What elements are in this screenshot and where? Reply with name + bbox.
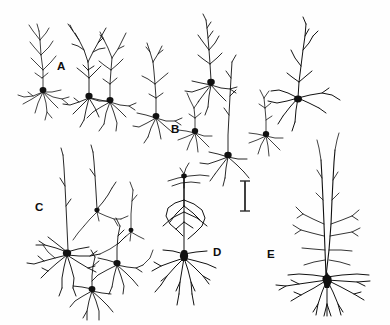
neuron-figure: A B C D E (0, 0, 390, 325)
panel-label-b: B (171, 124, 180, 136)
neuron-drawing-canvas (0, 0, 390, 325)
panel-label-a: A (57, 61, 66, 73)
panel-label-c: C (35, 202, 44, 214)
panel-label-d: D (213, 247, 222, 259)
panel-label-e: E (267, 249, 275, 261)
